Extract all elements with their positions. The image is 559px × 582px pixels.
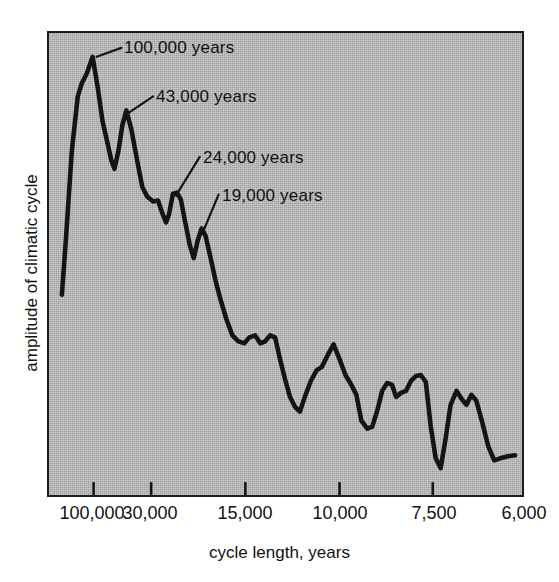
figure-root: 100,000 years 43,000 years 24,000 years … [0, 0, 559, 582]
leader-line-0 [97, 48, 122, 57]
spectrum-curve-svg [49, 33, 522, 495]
leader-line-3 [204, 195, 219, 231]
leader-line-1 [129, 96, 153, 112]
x-axis-title: cycle length, years [0, 543, 559, 563]
spectrum-curve [62, 57, 515, 468]
annotation-19000-years: 19,000 years [222, 186, 323, 206]
x-tick-label-6000: 6,000 [501, 503, 546, 524]
annotation-43000-years: 43,000 years [156, 87, 257, 107]
plot-area [47, 31, 524, 497]
x-tick-label-7500: 7,500 [411, 503, 456, 524]
x-tick-label-100000: 100,000 [59, 503, 124, 524]
x-axis-tick-marks [94, 482, 433, 495]
x-tick-label-10000: 10,000 [312, 503, 367, 524]
x-tick-label-30000: 30,000 [122, 503, 177, 524]
y-axis-title: amplitude of climatic cycle [22, 113, 42, 433]
leader-line-2 [176, 157, 200, 196]
x-tick-label-15000: 15,000 [217, 503, 272, 524]
annotation-100000-years: 100,000 years [124, 38, 234, 58]
annotation-24000-years: 24,000 years [203, 148, 304, 168]
